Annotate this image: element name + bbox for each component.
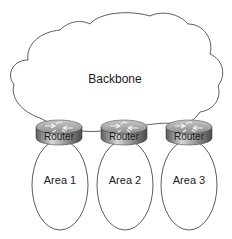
router-1: Router	[36, 120, 82, 145]
area-1-label: Area 1	[44, 174, 76, 186]
backbone-cloud: Backbone	[10, 13, 222, 132]
area-3-label: Area 3	[173, 174, 205, 186]
router-2: Router	[101, 120, 147, 145]
area-2-label: Area 2	[109, 174, 141, 186]
ospf-area-diagram: Backbone Area 1 Area 2 Area 3 Router Rou…	[0, 0, 232, 239]
router-1-label: Router	[44, 131, 75, 142]
area-1: Area 1	[32, 140, 88, 230]
router-2-label: Router	[109, 131, 140, 142]
area-2: Area 2	[97, 140, 153, 230]
router-3: Router	[166, 120, 212, 145]
area-3: Area 3	[161, 140, 217, 230]
router-3-label: Router	[174, 131, 205, 142]
backbone-label: Backbone	[88, 72, 142, 86]
